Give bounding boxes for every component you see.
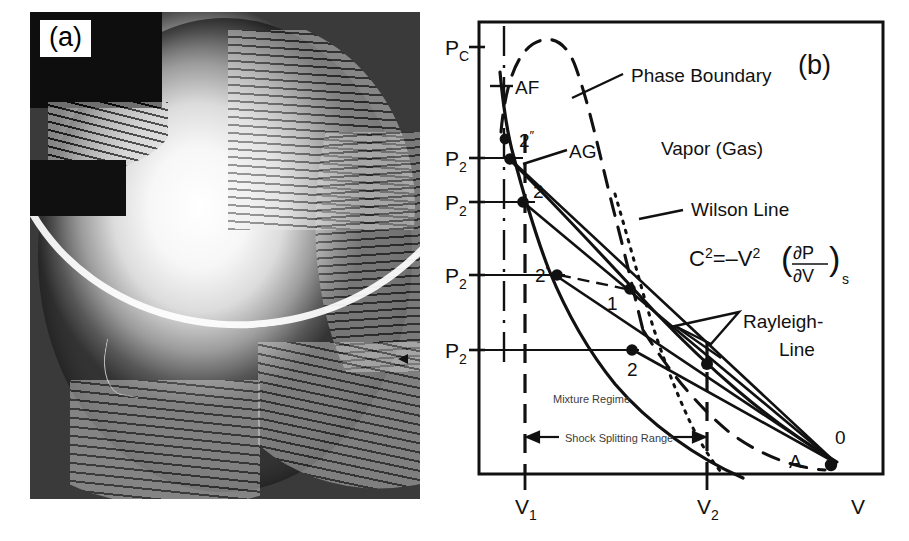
equation-numerator: ∂P — [793, 243, 814, 263]
arrow-marker-icon — [398, 354, 408, 364]
y-tick-label-P2-d: P2 — [445, 339, 467, 367]
point-label-2-plain: 2 — [533, 181, 544, 202]
marker-junction — [701, 358, 713, 370]
curve-label-AG: AG — [569, 141, 596, 162]
annotation-wilson-line: Wilson Line — [691, 199, 789, 220]
marker-2-lower — [626, 344, 638, 356]
svg-text:C2=–V2: C2=–V2 — [689, 245, 760, 271]
point-label-1: 1 — [607, 293, 618, 314]
annotation-vapor-gas: Vapor (Gas) — [661, 138, 763, 159]
marker-2-double-prime — [504, 153, 516, 165]
x-tick-label-V2: V2 — [697, 495, 719, 523]
figure-root: (a) — [0, 0, 909, 541]
panel-b-pv-diagram: PC P2 P2 P2 P2 V1 V2 V (b) AF AG 2″ 2 — [443, 12, 895, 532]
point-label-2-lower: 2 — [627, 359, 638, 380]
curve-label-AF: AF — [515, 77, 539, 98]
annotation-shock-splitting-range: Shock Splitting Range — [565, 432, 673, 444]
annotation-rayleigh-line-2: Line — [779, 339, 815, 360]
interference-fringes-bottom-left — [70, 380, 260, 499]
panel-b-label: (b) — [798, 50, 831, 80]
x-axis-ticks — [525, 474, 707, 490]
y-tick-label-P2-a: P2 — [445, 147, 467, 175]
marker-upper — [500, 134, 511, 145]
y-tick-label-P2-b: P2 — [445, 191, 467, 219]
marker-0 — [825, 459, 837, 471]
annotation-rayleigh-line-1: Rayleigh- — [743, 311, 823, 332]
annotation-phase-boundary: Phase Boundary — [631, 65, 772, 86]
x-tick-label-V1: V1 — [515, 495, 537, 523]
equation-paren-close: ) — [829, 239, 840, 277]
annotation-mixture-regime: Mixture Regime — [553, 393, 630, 405]
marker-2-prime — [551, 269, 563, 281]
equation-paren-open: ( — [781, 239, 793, 277]
y-tick-label-P2-c: P2 — [445, 264, 467, 292]
panel-a-label: (a) — [40, 20, 91, 57]
point-label-A: A — [789, 451, 802, 472]
x-axis-label-V: V — [851, 495, 865, 518]
panel-a-interferogram: (a) — [30, 12, 420, 499]
marker-2 — [517, 196, 529, 208]
point-label-0: 0 — [835, 427, 846, 448]
marker-1 — [624, 283, 636, 295]
equation-denominator: ∂V — [793, 266, 814, 286]
dark-notch-left — [30, 160, 126, 216]
y-tick-label-Pc: PC — [445, 36, 469, 64]
equation-subscript-s: s — [842, 271, 849, 287]
